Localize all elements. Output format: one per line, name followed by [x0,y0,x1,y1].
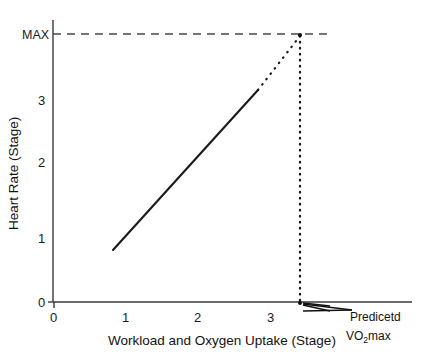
x-tick-label-2: 2 [194,310,201,325]
vo2-prefix: VO [346,329,363,343]
predicted-vo2max-label-line1: Predicetd [350,310,401,324]
predicted-vo2max-label-line2: VO2max [346,329,391,345]
extrapolated-line [258,36,300,90]
y-tick-label-2: 2 [38,155,45,170]
x-tick-label-1: 1 [122,310,129,325]
vo2-suffix: max [368,329,391,343]
y-tick-label-max: MAX [22,28,50,42]
y-axis-title: Heart Rate (Stage) [6,117,21,230]
chart-figure: MAX 3 2 1 0 0 1 2 3 Heart Rate (Stage) W… [0,0,423,360]
y-tick-label-0: 0 [38,295,45,310]
peak-marker [298,33,302,37]
x-axis-title: Workload and Oxygen Uptake (Stage) [108,333,336,348]
annotation-arrow [303,303,352,311]
chart-canvas: MAX 3 2 1 0 0 1 2 3 Heart Rate (Stage) W… [0,0,423,360]
x-tick-label-3: 3 [267,310,274,325]
y-tick-label-3: 3 [38,93,45,108]
x-tick-label-0: 0 [50,310,57,325]
measured-line [113,90,258,250]
vo2max-intercept-marker [298,301,302,305]
y-tick-label-1: 1 [38,231,45,246]
